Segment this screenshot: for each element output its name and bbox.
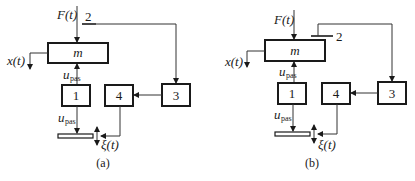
disturbance-label: ξ(t) <box>101 137 119 152</box>
actuator-signal-main: u <box>274 107 281 122</box>
control-signal-main: u <box>279 64 286 79</box>
actuator-signal-sub: pas <box>65 117 76 126</box>
force-label: F(t) <box>273 12 294 27</box>
block4-to-disturbance-line <box>318 104 337 134</box>
sensor-label: 2 <box>85 9 92 24</box>
caption-a: (a) <box>96 156 109 170</box>
actuator-signal-sub: pas <box>281 114 292 123</box>
control-signal-sub: pas <box>70 74 81 83</box>
block-1-label: 1 <box>73 88 80 103</box>
block4-to-disturbance-line <box>101 106 120 136</box>
output-arrow <box>247 51 265 67</box>
output-label: x(t) <box>224 54 243 69</box>
mass-label: m <box>290 43 299 58</box>
panel-b: F(t) 2 m x(t) u pas 1 4 3 u pas <box>224 10 406 170</box>
block-3-label: 3 <box>389 86 396 101</box>
block-3-label: 3 <box>173 88 180 103</box>
force-label: F(t) <box>56 7 77 22</box>
control-signal-main: u <box>63 67 70 82</box>
disturbance-label: ξ(t) <box>318 137 336 152</box>
caption-b: (b) <box>305 156 319 170</box>
output-label: x(t) <box>6 53 25 68</box>
panel-a: F(t) 2 m x(t) u pas 1 4 3 u pas <box>6 6 190 170</box>
sensor-label: 2 <box>336 29 343 44</box>
block-4-label: 4 <box>116 88 123 103</box>
block-4-label: 4 <box>333 86 340 101</box>
sensor-to-block3-line <box>318 24 392 81</box>
base-plate <box>58 134 93 138</box>
mass-label: m <box>73 45 82 60</box>
block-1-label: 1 <box>289 86 296 101</box>
control-signal-sub: pas <box>286 71 297 80</box>
output-arrow <box>30 53 48 69</box>
figure-canvas: F(t) 2 m x(t) u pas 1 4 3 u pas <box>0 0 415 181</box>
actuator-signal-main: u <box>58 110 65 125</box>
base-plate <box>275 132 310 136</box>
